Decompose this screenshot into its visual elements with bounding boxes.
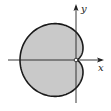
y-axis-label: y (80, 3, 87, 14)
x-axis-label: x (98, 62, 104, 73)
cardioid-chart: x y (0, 0, 111, 111)
origin-marker (74, 58, 78, 62)
